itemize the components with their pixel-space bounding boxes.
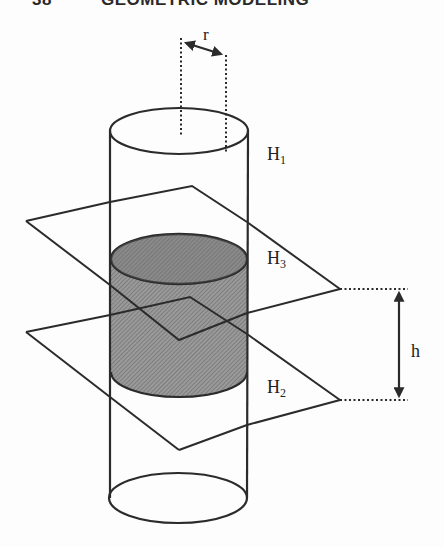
page: 38 GEOMETRIC MODELING — [0, 0, 444, 547]
radius-double-arrow-icon — [186, 43, 221, 54]
height-annotation: h — [340, 289, 420, 400]
label-h2: H2 — [267, 377, 286, 400]
shaded-solid-cylinder — [111, 234, 247, 397]
label-h3: H3 — [267, 248, 286, 271]
cylinder-halfspace-diagram: r h H1 H3 H2 — [0, 0, 444, 547]
cylinder-top-ellipse — [110, 108, 248, 154]
height-label: h — [411, 341, 420, 361]
label-h1: H1 — [267, 144, 286, 167]
radius-annotation: r — [181, 25, 226, 152]
cylinder-right-wall — [247, 131, 248, 498]
radius-label: r — [203, 25, 209, 44]
cylinder-bottom-ellipse — [109, 473, 247, 523]
